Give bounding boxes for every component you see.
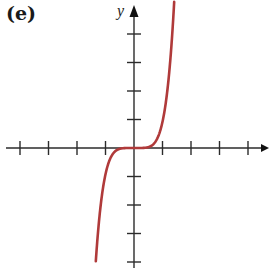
y-axis-arrow-icon bbox=[130, 5, 139, 17]
x-axis-arrow-icon bbox=[261, 144, 269, 152]
axes bbox=[6, 5, 269, 268]
function-curve bbox=[96, 2, 174, 261]
function-plot bbox=[0, 0, 269, 268]
